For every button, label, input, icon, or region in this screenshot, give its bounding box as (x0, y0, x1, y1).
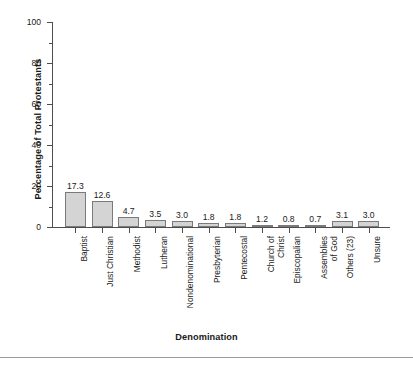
x-tick (369, 228, 370, 233)
y-tick-label-60: 60 (31, 99, 41, 109)
bar: 12.6 (92, 201, 113, 227)
x-axis-label-line: Others (23) (345, 236, 355, 278)
bar: 1.8 (225, 223, 246, 227)
y-tick-20: 20 (47, 186, 52, 187)
x-axis-label: Presbyterian (213, 236, 223, 341)
bar-value-label: 17.3 (67, 181, 84, 191)
bar-value-label: 0.8 (283, 214, 295, 224)
bar: 1.2 (252, 225, 273, 227)
bar: 3.0 (172, 221, 193, 227)
x-axis-label-line: Nondenominational (185, 236, 195, 308)
bar-value-label: 3.5 (149, 209, 161, 219)
x-axis-label: Episcopalian (293, 236, 303, 341)
x-axis-title: Denomination (0, 332, 413, 342)
bar: 3.0 (358, 221, 379, 227)
y-minor-tick-90 (49, 43, 52, 44)
bar-value-label: 1.2 (256, 214, 268, 224)
x-axis-label-line: Just Christian (105, 236, 115, 287)
y-minor-tick-70 (49, 84, 52, 85)
x-axis-label-line: Pentecostal (239, 236, 249, 280)
x-axis-label: Baptist (80, 236, 90, 341)
y-tick-80: 80 (47, 63, 52, 64)
bar: 1.8 (198, 223, 219, 227)
bar-value-label: 3.1 (336, 210, 348, 220)
bar: 4.7 (118, 217, 139, 227)
y-tick-40: 40 (47, 145, 52, 146)
bar: 3.5 (145, 220, 166, 227)
y-minor-tick-10 (49, 207, 52, 208)
x-axis-label: Nondenominational (186, 236, 196, 341)
bar-value-label: 0.7 (309, 214, 321, 224)
y-tick-100: 100 (47, 22, 52, 23)
x-tick (129, 228, 130, 233)
x-tick (102, 228, 103, 233)
x-axis-label: Assembliesof God (320, 236, 339, 341)
bar: 0.8 (278, 225, 299, 227)
x-axis-label: Pentecostal (240, 236, 250, 341)
x-axis-label-line: Assemblies (319, 236, 329, 279)
y-tick-label-100: 100 (27, 17, 41, 27)
bar-value-label: 4.7 (123, 206, 135, 216)
x-axis-label-line: Presbyterian (212, 236, 222, 283)
y-tick-label-0: 0 (36, 222, 41, 232)
x-tick (289, 228, 290, 233)
bar-chart-figure: Percentage of Total Protestants 02040608… (0, 0, 413, 365)
y-tick-60: 60 (47, 104, 52, 105)
bar-value-label: 1.8 (229, 212, 241, 222)
x-tick (315, 228, 316, 233)
bar: 17.3 (65, 192, 86, 227)
x-axis-label: Lutheran (160, 236, 170, 341)
bar-value-label: 3.0 (363, 210, 375, 220)
x-axis-label: Just Christian (106, 236, 116, 341)
y-tick-label-20: 20 (31, 181, 41, 191)
x-axis-label-line: Lutheran (159, 236, 169, 269)
x-tick (342, 228, 343, 233)
y-minor-tick-50 (49, 125, 52, 126)
bar-value-label: 12.6 (94, 190, 111, 200)
x-tick (75, 228, 76, 233)
y-minor-tick-30 (49, 166, 52, 167)
bottom-divider (0, 357, 413, 358)
x-axis-label-line: Christ (276, 236, 286, 341)
plot-area: 020406080100 17.312.64.73.53.01.81.81.20… (52, 22, 390, 227)
bar-value-label: 1.8 (203, 212, 215, 222)
x-axis-label-line: Unsure (372, 236, 382, 263)
x-axis-label-line: Baptist (79, 236, 89, 262)
x-axis-label: Others (23) (346, 236, 356, 341)
x-axis-label: Methodist (133, 236, 143, 341)
x-axis-label: Unsure (373, 236, 383, 341)
x-axis-label-line: Methodist (132, 236, 142, 272)
y-tick-0: 0 (47, 227, 52, 228)
x-tick (235, 228, 236, 233)
x-axis-label-line: Church of (266, 236, 276, 272)
x-tick (182, 228, 183, 233)
x-tick (155, 228, 156, 233)
y-axis-line (52, 22, 53, 228)
x-axis-label: Church ofChrist (267, 236, 286, 341)
y-tick-label-80: 80 (31, 58, 41, 68)
x-axis-label-line: of God (330, 236, 340, 341)
bar: 0.7 (305, 225, 326, 227)
bar-value-label: 3.0 (176, 210, 188, 220)
x-axis-label-line: Episcopalian (292, 236, 302, 284)
bar: 3.1 (332, 221, 353, 227)
x-tick (209, 228, 210, 233)
y-tick-label-40: 40 (31, 140, 41, 150)
x-tick (262, 228, 263, 233)
